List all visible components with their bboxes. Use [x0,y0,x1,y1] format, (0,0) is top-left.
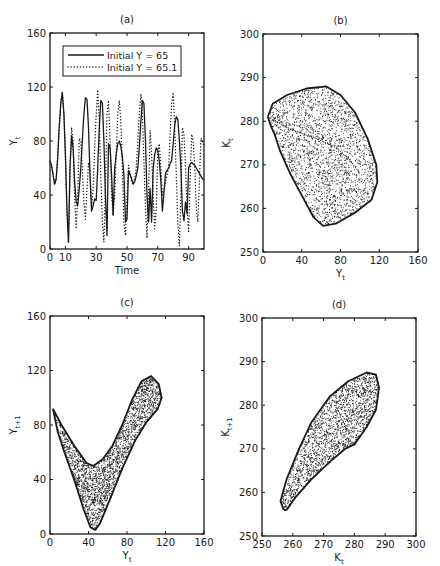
y-tick-label: 0 [40,244,46,255]
x-tick-label: 80 [121,537,134,548]
y-axis-title: Kt+1 [220,417,234,437]
scatter-points [281,373,379,510]
x-tick-label: 80 [334,255,347,266]
legend-label-solid: Initial Y = 65 [107,50,168,61]
x-tick-label: 0 [47,252,53,263]
y-axis-title: Yt+1 [8,415,22,435]
y-tick-label: 280 [239,400,258,411]
y-tick-label: 260 [240,203,259,214]
plot-frame [50,316,204,534]
y-tick-label: 290 [239,356,258,367]
panel-title: (b) [333,15,347,26]
y-tick-label: 250 [239,531,258,542]
x-tick-label: 160 [194,537,213,548]
x-tick-label: 270 [314,539,333,550]
y-tick-label: 120 [27,365,46,376]
x-tick-label: 160 [408,255,427,266]
x-axis-title: Yt [122,550,132,564]
y-tick-label: 280 [240,116,259,127]
y-tick-label: 40 [33,190,46,201]
x-tick-label: 90 [182,252,195,263]
y-tick-label: 270 [239,443,258,454]
legend-label-dotted: Initial Y = 65.1 [107,62,177,73]
x-tick-label: 70 [151,252,164,263]
y-tick-label: 40 [33,474,46,485]
x-tick-label: 120 [370,255,389,266]
x-tick-label: 0 [47,537,53,548]
panel-title: (a) [120,14,134,25]
y-tick-label: 260 [239,487,258,498]
figure-canvas: 0103050709004080120160(a)TimeYtInitial Y… [0,0,440,566]
x-tick-label: 120 [156,537,175,548]
x-tick-label: 10 [59,252,72,263]
y-tick-label: 270 [240,159,259,170]
panel-b-phase-y-k: 04080120160250260270280290300(b)YtKt [221,15,428,282]
y-tick-label: 80 [33,420,46,431]
x-axis-title: Kt [334,552,344,566]
y-tick-label: 160 [27,311,46,322]
x-tick-label: 50 [121,252,134,263]
x-tick-label: 300 [406,539,425,550]
attractor-inner-fold [268,117,360,174]
y-tick-label: 0 [40,529,46,540]
panel-d-return-map-k: 250260270280290300250260270280290300(d)K… [220,299,426,566]
x-tick-label: 290 [376,539,395,550]
x-tick-label: 0 [260,255,266,266]
x-tick-label: 260 [283,539,302,550]
x-axis-title: Yt [335,268,345,282]
x-tick-label: 40 [82,537,95,548]
attractor-boundary [268,86,378,226]
y-axis-title: Kt [221,138,235,148]
series-initial-65-line [50,92,204,242]
y-axis-title: Yt [8,136,22,146]
y-tick-label: 290 [240,72,259,83]
y-tick-label: 80 [33,136,46,147]
scatter-points [269,87,377,225]
x-tick-label: 40 [295,255,308,266]
scatter-points [55,377,163,529]
x-tick-label: 30 [90,252,103,263]
legend: Initial Y = 65Initial Y = 65.1 [63,46,181,76]
panel-title: (d) [332,299,346,310]
panel-a-time-series: 0103050709004080120160(a)TimeYtInitial Y… [8,14,204,276]
x-axis-title: Time [114,265,139,276]
y-tick-label: 300 [239,313,258,324]
panel-c-return-map-y: 0408012016004080120160(c)YtYt+1 [8,297,214,564]
y-tick-label: 160 [27,28,46,39]
x-tick-label: 280 [345,539,364,550]
y-tick-label: 120 [27,82,46,93]
y-tick-label: 300 [240,29,259,40]
y-tick-label: 250 [240,247,259,258]
panel-title: (c) [120,297,133,308]
